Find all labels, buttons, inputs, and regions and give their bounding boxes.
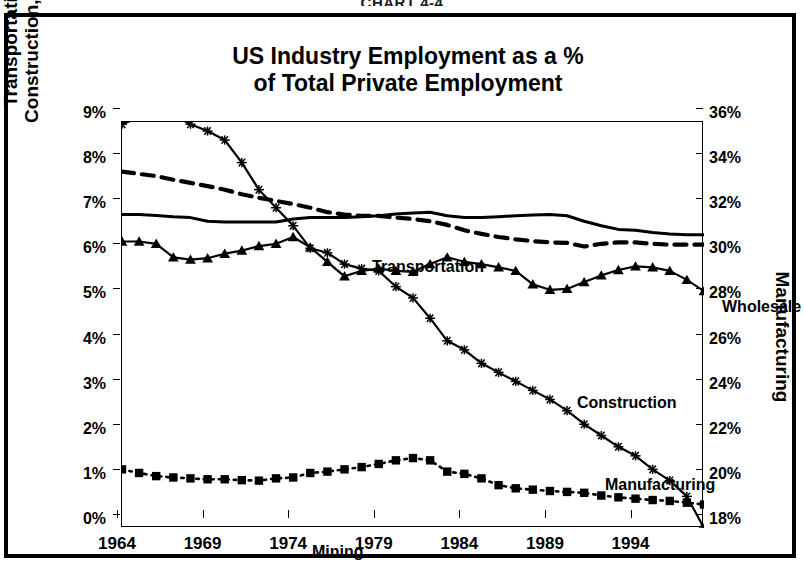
right-tick-mark — [696, 108, 703, 109]
series-transportation — [122, 172, 704, 247]
right-tick-20pct: 20% — [709, 465, 761, 483]
left-tick-mark — [113, 243, 120, 244]
chart-frame: US Industry Employment as a % of Total P… — [4, 13, 796, 558]
chart-title-line-1: US Industry Employment as a % — [232, 43, 583, 69]
left-tick-mark — [113, 153, 120, 154]
right-tick-mark — [696, 198, 703, 199]
right-axis-title: Manufacturing — [771, 227, 793, 447]
left-tick-4pct: 4% — [60, 330, 106, 348]
right-tick-22pct: 22% — [709, 420, 761, 438]
x-tick-mark — [117, 510, 118, 518]
right-tick-mark — [696, 288, 703, 289]
left-tick-6pct: 6% — [60, 239, 106, 257]
left-axis-title-line-2: Construction, & Wholesale — [22, 0, 43, 167]
figure-caption: CHART 4-4 — [0, 0, 804, 6]
x-tick-1969: 1969 — [168, 534, 238, 554]
chart-page: CHART 4-4 US Industry Employment as a % … — [0, 0, 804, 574]
right-tick-18pct: 18% — [709, 510, 761, 528]
right-tick-36pct: 36% — [709, 104, 761, 122]
x-tick-1979: 1979 — [339, 534, 409, 554]
left-tick-mark — [113, 469, 120, 470]
x-tick-mark — [203, 510, 204, 518]
chart-title: US Industry Employment as a % of Total P… — [98, 43, 718, 97]
x-tick-1994: 1994 — [596, 534, 666, 554]
left-tick-mark — [113, 379, 120, 380]
x-tick-1989: 1989 — [510, 534, 580, 554]
left-tick-mark — [113, 424, 120, 425]
x-tick-1984: 1984 — [424, 534, 494, 554]
x-tick-mark — [288, 510, 289, 518]
left-axis-title: Transportation, Mining, Construction, & … — [1, 0, 43, 167]
x-tick-1964: 1964 — [82, 534, 152, 554]
left-tick-3pct: 3% — [60, 375, 106, 393]
right-tick-32pct: 32% — [709, 194, 761, 212]
x-tick-mark — [374, 510, 375, 518]
right-tick-mark — [696, 243, 703, 244]
right-tick-mark — [696, 379, 703, 380]
x-tick-1974: 1974 — [253, 534, 323, 554]
left-tick-mark — [113, 288, 120, 289]
left-tick-mark — [113, 334, 120, 335]
left-tick-7pct: 7% — [60, 194, 106, 212]
right-tick-mark — [696, 334, 703, 335]
left-tick-8pct: 8% — [60, 149, 106, 167]
series-label-construction: Construction — [577, 394, 677, 412]
right-tick-28pct: 28% — [709, 284, 761, 302]
x-tick-mark — [631, 510, 632, 518]
series-manufacturing — [122, 122, 704, 528]
x-tick-mark — [459, 510, 460, 518]
left-tick-0pct: 0% — [60, 510, 106, 528]
left-tick-mark — [113, 198, 120, 199]
left-tick-9pct: 9% — [60, 104, 106, 122]
x-tick-mark — [545, 510, 546, 518]
series-label-transportation: Transportation — [372, 258, 484, 276]
right-tick-26pct: 26% — [709, 330, 761, 348]
left-tick-5pct: 5% — [60, 284, 106, 302]
left-axis-title-line-1: Transportation, Mining, — [1, 0, 22, 167]
series-lines — [122, 122, 704, 528]
series-label-manufacturing: Manufacturing — [605, 476, 715, 494]
chart-title-line-2: of Total Private Employment — [98, 70, 718, 97]
right-tick-mark — [696, 424, 703, 425]
right-tick-mark — [696, 469, 703, 470]
left-tick-mark — [113, 108, 120, 109]
right-tick-mark — [696, 153, 703, 154]
right-tick-24pct: 24% — [709, 375, 761, 393]
right-tick-30pct: 30% — [709, 239, 761, 257]
left-tick-2pct: 2% — [60, 420, 106, 438]
right-tick-34pct: 34% — [709, 149, 761, 167]
series-wholesale — [122, 212, 704, 235]
left-tick-1pct: 1% — [60, 465, 106, 483]
plot-area: Transportation Wholesale Construction Ma… — [121, 121, 703, 527]
right-tick-mark — [696, 514, 703, 515]
